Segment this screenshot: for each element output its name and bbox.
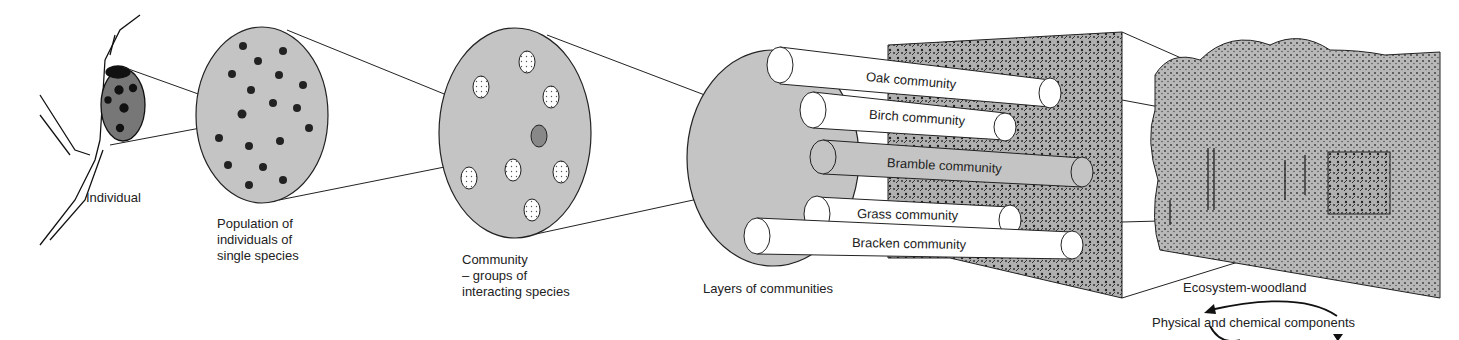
community-label: Community – groups of interacting specie… bbox=[462, 252, 570, 300]
arrow-head-icon bbox=[1333, 334, 1343, 340]
population-label: Population of individuals of single spec… bbox=[217, 216, 299, 264]
components-label: Physical and chemical components bbox=[1152, 315, 1355, 331]
woodland-inset bbox=[1328, 152, 1390, 214]
arrow-head-icon bbox=[1204, 304, 1216, 314]
tube-label-bracken: Bracken community bbox=[852, 235, 966, 252]
population-circle bbox=[196, 27, 328, 203]
ecosystem-label: Ecosystem-woodland bbox=[1183, 280, 1307, 296]
layers-label: Layers of communities bbox=[703, 281, 833, 297]
community-circle bbox=[439, 28, 591, 238]
individual-label: Individual bbox=[86, 190, 141, 206]
tube-label-grass: Grass community bbox=[857, 206, 958, 223]
woodland-illustration bbox=[1151, 39, 1440, 298]
ladybird-illustration bbox=[40, 15, 145, 245]
